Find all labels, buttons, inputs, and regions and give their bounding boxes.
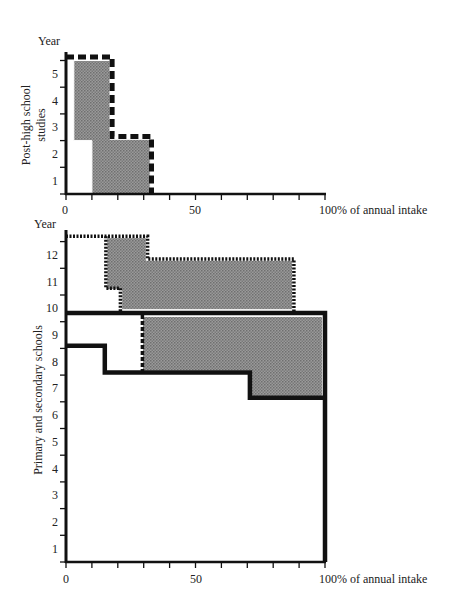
chart-figure: 12345 Year Post-high school studies 0 50… <box>0 0 457 607</box>
bottom-y-tick-label: 6 <box>52 408 58 422</box>
bottom-series-layer <box>66 236 325 562</box>
top-x-tick-50: 50 <box>189 203 201 217</box>
top-ylabel-line1: Post-high school <box>19 84 33 165</box>
bottom-y-tick-label: 12 <box>46 248 58 262</box>
top-y-tick-label: 1 <box>52 174 58 188</box>
bottom-y-tick-label: 3 <box>52 488 58 502</box>
top-y-tick-label: 3 <box>52 120 58 134</box>
top-series-layer <box>66 57 152 194</box>
bottom-shaded-region <box>107 238 293 310</box>
top-shaded-region <box>74 61 150 195</box>
bottom-x-tick-50: 50 <box>190 572 202 586</box>
top-y-tick-label: 4 <box>52 94 58 108</box>
bottom-y-tick-label: 5 <box>52 435 58 449</box>
bottom-shaded-region <box>142 316 322 396</box>
bottom-y-axis-label: Primary and secondary schools <box>31 325 45 475</box>
bottom-x-tick-100: 100% of annual intake <box>319 572 427 586</box>
bottom-y-tick-label: 8 <box>52 355 58 369</box>
top-y-tick-label: 2 <box>52 147 58 161</box>
top-y-axis-label: Post-high school studies <box>19 84 48 165</box>
bottom-x-tick-0: 0 <box>63 572 69 586</box>
bottom-y-tick-label: 2 <box>52 515 58 529</box>
bottom-y-axis-title: Year <box>34 217 56 231</box>
primary-secondary-panel: 123456789101112 Year Primary and seconda… <box>31 217 427 586</box>
top-ylabel-line2: studies <box>34 108 48 142</box>
top-x-tick-0: 0 <box>62 203 68 217</box>
top-x-tick-100: 100% of annual intake <box>319 203 427 217</box>
top-y-tick-label: 5 <box>52 67 58 81</box>
post-high-school-panel: 12345 Year Post-high school studies 0 50… <box>19 34 427 217</box>
top-y-axis-title: Year <box>38 34 60 48</box>
bottom-y-tick-label: 10 <box>46 301 58 315</box>
bottom-y-tick-label: 11 <box>46 275 58 289</box>
bottom-y-tick-label: 7 <box>52 381 58 395</box>
bottom-ylabel: Primary and secondary schools <box>31 325 45 475</box>
bottom-y-tick-label: 9 <box>52 328 58 342</box>
bottom-y-tick-label: 4 <box>52 462 58 476</box>
bottom-y-tick-label: 1 <box>52 542 58 556</box>
